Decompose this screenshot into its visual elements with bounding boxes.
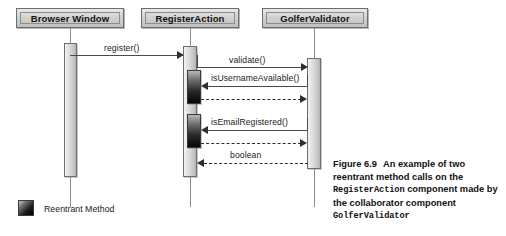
arrow-head-is-email-registered	[201, 126, 208, 134]
message-line-boolean	[204, 163, 308, 164]
activation-bar-register-action	[183, 46, 197, 177]
figure-caption: Figure 6.9An example of two reentrant me…	[333, 158, 503, 223]
lifeline-header-browser-window[interactable]: Browser Window	[16, 8, 124, 28]
lifeline-label-browser-window: Browser Window	[31, 13, 109, 24]
arrow-head-return-username	[300, 95, 307, 103]
caption-code-register-action: RegisterAction	[333, 185, 405, 195]
message-label-boolean: boolean	[230, 150, 261, 160]
lifeline-stem-browser-window-tail	[70, 177, 71, 207]
message-line-validate	[197, 67, 304, 68]
message-label-register: register()	[104, 43, 139, 53]
arrow-head-boolean	[197, 159, 204, 167]
message-line-return-email	[201, 143, 301, 144]
lifeline-header-golfer-validator[interactable]: GolferValidator	[262, 8, 368, 28]
figure-number: Figure 6.9	[333, 159, 377, 169]
activation-bar-reentrant-is-username-available	[187, 70, 201, 104]
message-connector-validate	[197, 55, 198, 67]
arrow-head-validate	[301, 63, 308, 71]
lifeline-stem-golfer-validator-tail	[314, 169, 315, 207]
legend-label-reentrant-method: Reentrant Method	[44, 204, 114, 214]
lifeline-label-golfer-validator: GolferValidator	[280, 13, 350, 24]
message-label-is-username-available: isUsernameAvailable()	[211, 73, 299, 83]
caption-code-golfer-validator: GolferValidator	[333, 211, 410, 221]
lifeline-header-register-action[interactable]: RegisterAction	[141, 8, 239, 28]
message-connector-is-email-registered	[307, 118, 308, 130]
lifeline-stem-golfer-validator	[314, 28, 315, 58]
message-line-is-username-available	[208, 86, 308, 87]
lifeline-stem-browser-window	[70, 28, 71, 43]
message-line-is-email-registered	[208, 130, 308, 131]
arrow-head-register	[177, 51, 184, 59]
message-label-is-email-registered: isEmailRegistered()	[211, 117, 288, 127]
arrow-head-is-username-available	[201, 82, 208, 90]
message-line-return-username	[201, 99, 301, 100]
activation-bar-golfer-validator	[307, 58, 321, 169]
arrow-head-return-email	[300, 139, 307, 147]
lifeline-label-register-action: RegisterAction	[156, 13, 225, 24]
activation-bar-browser-window	[64, 43, 77, 177]
message-connector-is-username-available	[307, 75, 308, 86]
lifeline-stem-register-action	[190, 28, 191, 46]
message-line-register	[70, 55, 181, 56]
activation-bar-reentrant-is-email-registered	[187, 114, 201, 148]
legend-swatch-reentrant-method	[18, 200, 34, 216]
sequence-diagram-canvas: Browser Window RegisterAction GolferVali…	[0, 0, 506, 236]
message-label-validate: validate()	[229, 55, 265, 65]
lifeline-stem-register-action-tail	[190, 177, 191, 207]
